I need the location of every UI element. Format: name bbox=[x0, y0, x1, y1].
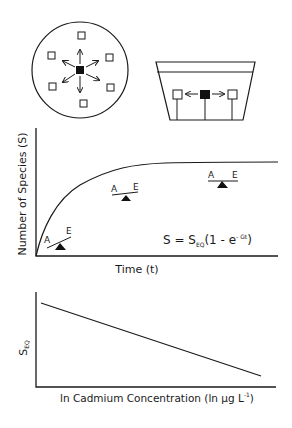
svg-text:A: A bbox=[208, 170, 215, 180]
bottom-graph: SEQ ln Cadmium Concentration (ln µg L-1) bbox=[17, 292, 276, 404]
bottom-ylabel: SEQ bbox=[17, 340, 30, 356]
balance-early: A E bbox=[44, 226, 72, 250]
balance-mid: A E bbox=[111, 182, 139, 201]
bottom-axes bbox=[36, 292, 276, 387]
main-ylabel: Number of Species (S) bbox=[16, 132, 29, 255]
main-xlabel: Time (t) bbox=[114, 263, 158, 276]
fulcrum-icon bbox=[217, 181, 228, 188]
main-graph: Number of Species (S) Time (t) S = SEQ(1… bbox=[16, 128, 278, 276]
trough-arena bbox=[156, 62, 255, 120]
equation: S = SEQ(1 - e- Gt) bbox=[163, 233, 252, 248]
balance-equilibrium: A E bbox=[208, 170, 238, 188]
trough-left-square bbox=[173, 90, 182, 99]
center-filled-square bbox=[76, 66, 84, 74]
svg-text:E: E bbox=[232, 170, 238, 180]
fulcrum-icon bbox=[121, 195, 131, 201]
species-curve bbox=[36, 162, 278, 256]
seq-decline-line bbox=[41, 303, 261, 376]
trough-right-square bbox=[228, 90, 237, 99]
diagram-canvas: Number of Species (S) Time (t) S = SEQ(1… bbox=[0, 0, 292, 428]
svg-text:E: E bbox=[66, 226, 72, 236]
svg-text:A: A bbox=[44, 235, 51, 245]
trough-center-filled-square bbox=[200, 90, 210, 99]
svg-text:E: E bbox=[133, 182, 139, 192]
bottom-xlabel: ln Cadmium Concentration (ln µg L-1) bbox=[60, 391, 254, 404]
svg-text:A: A bbox=[111, 184, 118, 194]
circle-arena bbox=[32, 22, 128, 118]
